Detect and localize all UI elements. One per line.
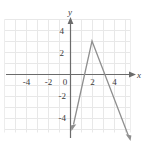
x-tick-label-0: -4 — [23, 77, 31, 87]
x-tick-label-4: 4 — [112, 77, 117, 87]
y-tick-label-neg2: -2 — [59, 91, 67, 101]
x-tick-label-1: -2 — [45, 77, 53, 87]
y-tick-label-2: 2 — [60, 48, 65, 58]
x-tick-label-2: 0 — [63, 77, 68, 87]
y-tick-label-neg4: -4 — [59, 113, 67, 123]
y-axis-label: y — [67, 7, 72, 17]
x-tick-label-3: 2 — [90, 77, 95, 87]
x-axis-label: x — [136, 70, 141, 80]
coordinate-graph-figure: -4 -2 0 2 4 4 2 -2 -4 x y — [0, 0, 147, 144]
plot-svg: -4 -2 0 2 4 4 2 -2 -4 x y — [0, 0, 147, 144]
y-tick-label-4: 4 — [60, 26, 65, 36]
